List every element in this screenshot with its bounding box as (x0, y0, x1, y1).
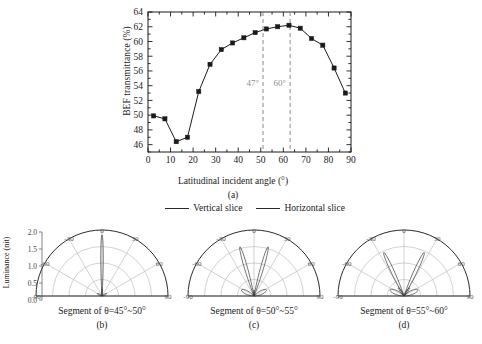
legend: Vertical slice Horizontal slice (150, 203, 360, 213)
x-tick-label: 40 (233, 155, 243, 165)
x-tick-label: 10 (166, 155, 176, 165)
legend-entry-horizontal-slice: Horizontal slice (256, 203, 344, 213)
y-tick-label: 56 (134, 66, 144, 76)
data-point-marker (298, 26, 302, 30)
data-point-marker (197, 89, 201, 93)
data-point-marker (287, 23, 291, 27)
data-point-marker (264, 27, 268, 31)
data-point-marker (230, 41, 234, 45)
data-point-marker (174, 140, 178, 144)
x-tick-label: 70 (301, 155, 311, 165)
annotation-label-0: 47° (246, 78, 259, 88)
legend-label-horizontal: Horizontal slice (284, 203, 344, 213)
polar-angle-tick-label: 60 (156, 260, 164, 268)
data-point-marker (152, 114, 156, 118)
data-point-marker (185, 135, 189, 139)
panel-c-caption: Segment of θ=50°~55° (178, 306, 330, 316)
polar-chart-b: -90-60-300306090 (26, 222, 178, 306)
y-tick-label: 50 (134, 110, 144, 120)
panel-b-sublabel: (b) (26, 320, 178, 330)
polar-chart-c: -90-60-300306090 (178, 222, 330, 306)
polar-angle-tick-label: 90 (165, 293, 173, 301)
panel-c-sublabel: (c) (178, 320, 330, 330)
polar-lobe-vertical (240, 247, 254, 296)
polar-angle-tick-label: 0 (100, 227, 104, 235)
y-tick-label: 52 (134, 96, 144, 106)
polar-angle-tick-label: 30 (284, 235, 292, 243)
polar-lobe-vertical (254, 247, 268, 296)
data-point-marker (253, 31, 257, 35)
data-point-marker (219, 47, 223, 51)
polar-angle-tick-label: -90 (333, 293, 343, 301)
polar-angle-tick-label: 90 (317, 293, 325, 301)
legend-line-icon-horizontal (256, 208, 280, 209)
annotation-label-1: 60° (273, 78, 286, 88)
data-point-marker (343, 91, 347, 95)
polar-angle-tick-label: -30 (64, 235, 74, 243)
y-tick-label: 46 (134, 140, 144, 150)
polar-angle-tick-label: 0 (402, 227, 406, 235)
panel-d-caption: Segment of θ=55°~60° (328, 306, 480, 316)
x-axis-label: Latitudinal incident angle (°) (108, 176, 358, 186)
polar-angle-tick-label: 30 (434, 235, 442, 243)
y-tick-label: 58 (134, 52, 144, 62)
polar-angle-tick-label: 60 (308, 260, 316, 268)
y-tick-label: 64 (134, 7, 144, 17)
x-tick-label: 80 (324, 155, 334, 165)
figure-root: BEF transmittance (%) 47°60°010203040506… (0, 0, 482, 344)
legend-entry-vertical-slice: Vertical slice (165, 203, 242, 213)
polar-chart-d: -90-60-300306090 (328, 222, 480, 306)
x-tick-label: 90 (346, 155, 356, 165)
polar-angle-tick-label: -60 (40, 260, 50, 268)
panel-a-sublabel: (a) (108, 190, 358, 200)
y-tick-label: 60 (134, 37, 144, 47)
data-point-marker (163, 117, 167, 121)
legend-label-vertical: Vertical slice (193, 203, 242, 213)
polar-angle-tick-label: -90 (31, 293, 41, 301)
polar-lobe-horizontal (102, 289, 103, 296)
x-tick-label: 20 (188, 155, 198, 165)
data-point-marker (208, 62, 212, 66)
panel-b-caption: Segment of θ=45°~50° (26, 306, 178, 316)
polar-angle-tick-label: -30 (216, 235, 226, 243)
data-point-marker (242, 36, 246, 40)
x-tick-label: 0 (146, 155, 151, 165)
data-point-marker (321, 43, 325, 47)
data-point-marker (276, 25, 280, 29)
polar-angle-tick-label: 60 (458, 260, 466, 268)
x-tick-label: 50 (256, 155, 266, 165)
polar-angle-tick-label: -60 (192, 260, 202, 268)
y-tick-label: 54 (134, 81, 144, 91)
legend-line-icon-vertical (165, 208, 189, 209)
polar-angle-tick-label: 0 (252, 227, 256, 235)
panel-c-polar-plot: -90-60-300306090 Segment of θ=50°~55° (c… (178, 222, 330, 344)
y-tick-label: 48 (134, 125, 144, 135)
x-tick-label: 60 (279, 155, 289, 165)
polar-angle-tick-label: 30 (132, 235, 140, 243)
polar-lobe-horizontal (254, 290, 255, 296)
polar-angle-tick-label: -90 (183, 293, 193, 301)
polar-angle-tick-label: -60 (342, 260, 352, 268)
data-point-marker (332, 66, 336, 70)
chart-a-plot: 47°60°0102030405060708090464850525456586… (108, 4, 358, 174)
x-tick-label: 30 (211, 155, 221, 165)
panel-d-sublabel: (d) (328, 320, 480, 330)
y-tick-label: 62 (134, 22, 144, 32)
panel-d-polar-plot: -90-60-300306090 Segment of θ=55°~60° (d… (328, 222, 480, 344)
data-point-marker (309, 36, 313, 40)
panel-b-polar-plot: -90-60-300306090 Segment of θ=45°~50° (b… (26, 222, 178, 344)
polar-plot-row: Luminance (nit) 0.00.51.01.52.0 -90-60-3… (0, 222, 482, 344)
panel-a-bef-transmittance-chart: BEF transmittance (%) 47°60°010203040506… (108, 4, 358, 200)
polar-angle-tick-label: 90 (467, 293, 475, 301)
polar-angle-tick-label: -30 (366, 235, 376, 243)
